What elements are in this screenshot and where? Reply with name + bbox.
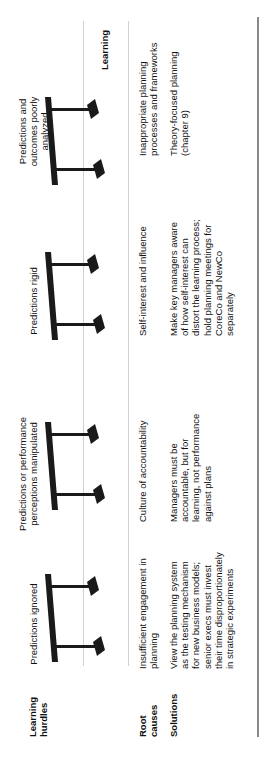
learning-hurdles-diagram: Learning hurdles Root causes Solutions P… <box>0 0 266 784</box>
solution-3: Make key managers aware of how self-inte… <box>168 216 235 336</box>
root-cause-2: Culture of accountability <box>137 382 148 522</box>
hurdle-icon <box>45 414 120 514</box>
gridline-middle <box>128 21 129 666</box>
hurdle-title-3: Predictions rigid <box>28 266 39 336</box>
hurdle-title-1: Predictions ignored <box>28 574 39 674</box>
root-cause-3: Self-interest and influence <box>137 196 148 336</box>
solution-4: Theory-focused planning (chapter 9) <box>168 31 190 156</box>
row-label-solutions: Solutions <box>168 677 179 737</box>
root-cause-1: Insufficient engagement in planning <box>137 554 159 669</box>
solution-1: View the planning system as the testing … <box>168 551 235 669</box>
hurdle-icon <box>45 566 120 666</box>
hurdle-icon <box>45 89 120 189</box>
solution-2: Managers must be accountable, but for le… <box>168 402 213 522</box>
hurdle-title-2: Predictions or performance perceptions m… <box>17 409 39 539</box>
bottom-border <box>257 17 259 737</box>
hurdle-icon <box>45 244 120 344</box>
row-label-root-causes: Root causes <box>137 697 159 737</box>
end-label-learning: Learning <box>99 30 110 70</box>
root-cause-4: Inappropriate planning processes and fra… <box>137 31 159 156</box>
row-label-hurdles: Learning hurdles <box>27 692 49 737</box>
